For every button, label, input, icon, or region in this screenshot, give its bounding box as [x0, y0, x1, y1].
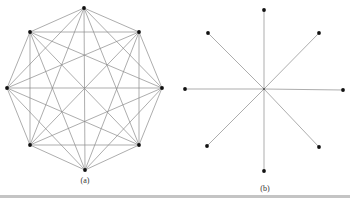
graph-edge: [30, 32, 85, 170]
star-edge: [264, 89, 319, 147]
star-vertex: [262, 8, 266, 12]
graph-vertex: [160, 86, 164, 90]
star-graph-panel: [183, 8, 345, 173]
bottom-rule: [0, 195, 350, 198]
star-vertex: [183, 87, 187, 91]
graph-vertex: [137, 30, 141, 34]
star-hub: [263, 88, 265, 90]
graph-vertex: [28, 143, 32, 147]
caption-a: (a): [81, 176, 90, 185]
graph-vertex: [28, 30, 32, 34]
star-vertex: [206, 31, 210, 35]
star-edge: [208, 33, 264, 89]
graph-vertex: [82, 6, 86, 10]
star-edge: [207, 89, 264, 146]
graph-vertex: [83, 168, 87, 172]
complete-graph-panel: [5, 6, 164, 172]
star-vertex: [341, 88, 345, 92]
star-edge: [264, 33, 319, 89]
caption-b: (b): [260, 184, 269, 193]
star-edge: [264, 89, 343, 90]
star-vertex: [317, 145, 321, 149]
graph-edge: [85, 32, 139, 170]
graph-vertex: [5, 86, 9, 90]
star-vertex: [262, 169, 266, 173]
star-vertex: [317, 31, 321, 35]
graph-vertex: [137, 143, 141, 147]
graph-edge: [84, 8, 162, 88]
star-vertex: [205, 144, 209, 148]
figure-canvas: [0, 0, 350, 198]
